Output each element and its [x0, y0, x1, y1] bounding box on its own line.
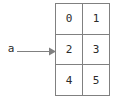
table-row: 4 5	[56, 65, 109, 95]
arrow-right-icon	[17, 43, 56, 56]
grid-cell-0-0: 0	[56, 4, 83, 34]
table-row: 0 1	[56, 4, 109, 35]
arrow-right-svg	[17, 45, 56, 58]
grid-cell-2-0: 4	[56, 65, 83, 95]
diagram-canvas: a 0 1 2 3 4 5	[0, 0, 119, 100]
table-row: 2 3	[56, 35, 109, 66]
pointer-label-a: a	[5, 42, 17, 56]
grid-cell-1-1: 3	[83, 35, 109, 65]
array-grid: 0 1 2 3 4 5	[55, 3, 110, 96]
grid-cell-0-1: 1	[83, 4, 109, 34]
grid-cell-1-0: 2	[56, 35, 83, 65]
grid-cell-2-1: 5	[83, 65, 109, 95]
